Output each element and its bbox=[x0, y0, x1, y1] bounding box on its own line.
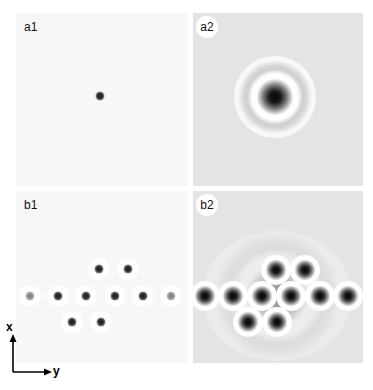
panel-label-b1: b1 bbox=[24, 197, 37, 213]
panel-a1: a1 bbox=[16, 13, 188, 186]
intensity-spot bbox=[305, 281, 335, 311]
intensity-spot bbox=[97, 318, 106, 327]
intensity-spot bbox=[333, 281, 363, 311]
intensity-spot bbox=[124, 265, 133, 274]
panel-b2: b2 bbox=[193, 191, 363, 363]
intensity-spot bbox=[139, 292, 148, 301]
panel-a2: a2 bbox=[193, 13, 363, 186]
ring-pattern-spot bbox=[234, 56, 316, 138]
panel-label-a1: a1 bbox=[24, 19, 37, 35]
intensity-spot bbox=[96, 92, 105, 101]
axis-label-y: y bbox=[53, 364, 60, 378]
intensity-spot-faint bbox=[167, 292, 176, 301]
intensity-spot bbox=[82, 292, 91, 301]
intensity-spot bbox=[233, 307, 263, 337]
intensity-spot-faint bbox=[26, 292, 35, 301]
intensity-spot bbox=[111, 292, 120, 301]
panel-label-a2: a2 bbox=[196, 16, 218, 38]
axis-label-x: x bbox=[6, 320, 13, 334]
intensity-spot bbox=[54, 292, 63, 301]
intensity-spot bbox=[262, 307, 292, 337]
intensity-spot bbox=[95, 265, 104, 274]
panel-label-b2: b2 bbox=[196, 194, 218, 216]
